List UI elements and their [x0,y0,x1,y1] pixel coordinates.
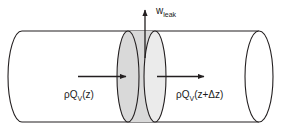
pipe-right-end-ellipse [245,31,273,122]
figure-canvas: wleak ρQV(z) ρQV(z+Δz) [0,0,285,135]
outflow-label: ρQV(z+Δz) [176,89,223,102]
pipe-left-end-arc [8,31,22,122]
pipe-control-volume-figure: wleak ρQV(z) ρQV(z+Δz) [0,0,285,135]
outflow-label-argument: (z+Δz) [194,89,223,100]
leak-label-subscript: leak [163,11,176,18]
inflow-label-argument: (z) [82,89,94,100]
leak-label: wleak [155,5,177,18]
